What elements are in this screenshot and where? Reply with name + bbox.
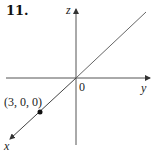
z-axis-label: z [65,3,71,17]
y-axis-label: y [140,81,147,95]
point-marker [38,110,43,115]
origin-label: 0 [79,80,85,94]
coordinate-diagram: z y x 0 (3, 0, 0) [0,0,154,166]
x-axis-label: x [3,139,10,153]
point-label: (3, 0, 0) [4,95,42,109]
diagonal-line [76,12,146,78]
